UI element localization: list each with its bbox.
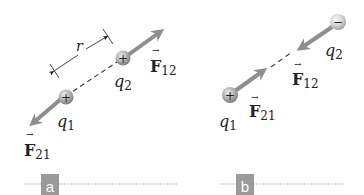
label-f21: → F21 — [24, 129, 51, 162]
svg-text:F21: F21 — [249, 102, 276, 123]
panel-b-tag: b — [241, 178, 249, 195]
label-q1: q1 — [57, 112, 75, 133]
coulomb-force-diagram: r + + q2 q1 → F12 → — [0, 0, 364, 195]
svg-text:F12: F12 — [292, 70, 319, 91]
label-f12: → F12 — [292, 59, 319, 91]
force-arrow-f21 — [235, 71, 263, 91]
charge-sign-plus-icon: + — [61, 91, 71, 105]
panel-a: r + + q2 q1 → F12 → — [24, 29, 178, 195]
svg-text:F12: F12 — [150, 57, 177, 78]
label-q2: q2 — [114, 72, 132, 93]
label-f21: → F21 — [249, 92, 276, 123]
panel-b: − + q2 q1 → F12 → F21 b — [219, 14, 346, 195]
charge-sign-minus-icon: − — [333, 15, 343, 29]
label-q1: q1 — [219, 112, 237, 133]
charge-q2: − — [330, 14, 346, 30]
charge-q1: + — [222, 87, 238, 103]
svg-text:F21: F21 — [24, 141, 51, 162]
charge-sign-plus-icon: + — [225, 89, 235, 103]
svg-text:→: → — [152, 45, 160, 55]
separation-line — [271, 52, 292, 67]
charge-q1: + — [59, 90, 74, 105]
distance-label: r — [76, 38, 84, 54]
svg-text:→: → — [294, 59, 302, 69]
label-q2: q2 — [325, 41, 343, 62]
charge-sign-plus-icon: + — [118, 52, 128, 66]
svg-text:→: → — [251, 92, 259, 102]
panel-a-tag: a — [46, 178, 55, 195]
svg-text:→: → — [26, 129, 34, 139]
label-f12: → F12 — [150, 45, 177, 78]
charge-q2: + — [116, 51, 131, 66]
